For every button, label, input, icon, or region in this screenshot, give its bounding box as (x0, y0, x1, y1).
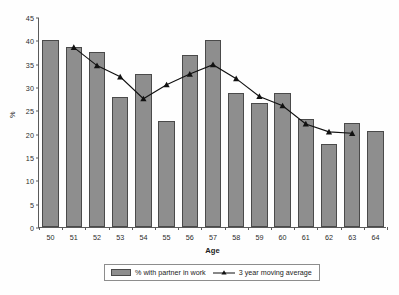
x-axis-tick-label-57: 57 (209, 233, 217, 242)
x-axis-tick-label-51: 51 (70, 233, 78, 242)
legend-entry-bar: % with partner in work (111, 268, 206, 277)
x-axis-tick-label-50: 50 (47, 233, 55, 242)
x-axis-tick-label-60: 60 (279, 233, 287, 242)
x-axis-tick-mark (248, 227, 249, 230)
x-axis-tick-label-52: 52 (93, 233, 101, 242)
x-axis-tick-mark (85, 227, 86, 230)
bar-age-50 (42, 40, 58, 227)
x-axis-tick-label-54: 54 (139, 233, 147, 242)
x-axis-tick-label-55: 55 (163, 233, 171, 242)
y-axis-tick-mark (36, 88, 39, 89)
chart-container: % 05101520253035404550515253545556575859… (0, 0, 399, 295)
y-axis-tick-mark (36, 204, 39, 205)
legend-label-line: 3 year moving average (239, 268, 312, 277)
x-axis-tick-mark (39, 227, 40, 230)
x-axis-tick-mark (225, 227, 226, 230)
plot-area: 0510152025303540455051525354555657585960… (38, 18, 386, 228)
x-axis-tick-mark (132, 227, 133, 230)
y-axis-title: % (8, 111, 17, 118)
bar-age-62 (321, 144, 337, 227)
bar-swatch-icon (111, 269, 131, 276)
x-axis-tick-label-64: 64 (371, 233, 379, 242)
x-axis-tick-label-59: 59 (255, 233, 263, 242)
y-axis-tick-mark (36, 134, 39, 135)
x-axis-tick-label-63: 63 (348, 233, 356, 242)
bar-age-63 (344, 123, 360, 227)
bar-age-61 (298, 119, 314, 227)
chart-legend: % with partner in work 3 year moving ave… (104, 264, 320, 281)
y-axis-tick-mark (36, 41, 39, 42)
x-axis-title: Age (39, 246, 386, 255)
bar-age-59 (251, 103, 267, 227)
x-axis-tick-label-58: 58 (232, 233, 240, 242)
bar-age-51 (66, 47, 82, 227)
x-axis-tick-label-53: 53 (116, 233, 124, 242)
x-axis-tick-mark (62, 227, 63, 230)
bar-age-52 (89, 52, 105, 227)
y-axis-tick-mark (36, 158, 39, 159)
bar-age-60 (274, 93, 290, 227)
x-axis-tick-label-61: 61 (302, 233, 310, 242)
legend-entry-line: 3 year moving average (213, 268, 312, 277)
bar-age-55 (158, 121, 174, 227)
legend-label-bar: % with partner in work (135, 268, 206, 277)
line-marker-swatch-icon (213, 269, 235, 277)
x-axis-tick-mark (178, 227, 179, 230)
x-axis-tick-mark (271, 227, 272, 230)
y-axis-tick-mark (36, 64, 39, 65)
x-axis-tick-label-62: 62 (325, 233, 333, 242)
bar-age-58 (228, 93, 244, 227)
x-axis-tick-mark (387, 227, 388, 230)
x-axis-tick-mark (364, 227, 365, 230)
y-axis-tick-mark (36, 18, 39, 19)
x-axis-tick-mark (294, 227, 295, 230)
bar-age-57 (205, 40, 221, 227)
bar-age-64 (367, 131, 383, 227)
plot-inner: 0510152025303540455051525354555657585960… (39, 18, 386, 227)
x-axis-tick-mark (317, 227, 318, 230)
x-axis-tick-mark (155, 227, 156, 230)
x-axis-tick-mark (109, 227, 110, 230)
bar-age-56 (182, 55, 198, 227)
bar-age-54 (135, 74, 151, 227)
bar-age-53 (112, 97, 128, 227)
x-axis-tick-label-56: 56 (186, 233, 194, 242)
x-axis-tick-mark (201, 227, 202, 230)
y-axis-tick-mark (36, 111, 39, 112)
x-axis-tick-mark (341, 227, 342, 230)
y-axis-tick-mark (36, 181, 39, 182)
